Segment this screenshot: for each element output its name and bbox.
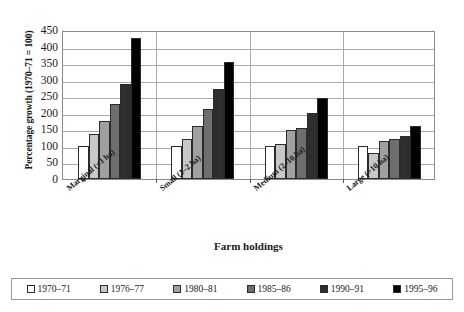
chart-legend: 1970–711976–771980–811985–861990–911995–…: [11, 278, 453, 300]
legend-label: 1985–86: [258, 284, 291, 294]
legend-item[interactable]: 1976–77: [100, 284, 144, 294]
y-axis-tick-labels: 050100150200250300350400450: [24, 31, 58, 180]
legend-item[interactable]: 1970–71: [27, 284, 71, 294]
x-tick-mark: [156, 179, 157, 183]
y-tick-label: 350: [24, 58, 58, 70]
bar[interactable]: [192, 126, 203, 179]
bar[interactable]: [224, 62, 235, 179]
y-tick-label: 50: [24, 158, 58, 170]
y-tick-label: 300: [24, 75, 58, 87]
bar[interactable]: [203, 109, 214, 179]
bar[interactable]: [410, 126, 421, 179]
legend-swatch-icon: [393, 285, 401, 293]
legend-item[interactable]: 1995–96: [393, 284, 437, 294]
x-tick-mark: [343, 179, 344, 183]
legend-swatch-icon: [320, 285, 328, 293]
legend-item[interactable]: 1980–81: [173, 284, 217, 294]
y-tick-label: 250: [24, 91, 58, 103]
y-tick-label: 400: [24, 42, 58, 54]
legend-swatch-icon: [27, 285, 35, 293]
legend-item[interactable]: 1990–91: [320, 284, 364, 294]
bar[interactable]: [307, 113, 318, 179]
y-tick-label: 100: [24, 141, 58, 153]
legend-label: 1980–81: [184, 284, 217, 294]
legend-swatch-icon: [247, 285, 255, 293]
bar-group: [343, 32, 436, 179]
y-tick-label: 450: [24, 25, 58, 37]
x-axis-title: Farm holdings: [62, 240, 435, 252]
legend-item[interactable]: 1985–86: [247, 284, 291, 294]
x-tick-mark: [250, 179, 251, 183]
legend-label: 1990–91: [331, 284, 364, 294]
legend-label: 1970–71: [38, 284, 71, 294]
bar[interactable]: [131, 38, 142, 179]
y-tick-label: 150: [24, 125, 58, 137]
bar[interactable]: [213, 89, 224, 179]
bar[interactable]: [400, 136, 411, 179]
bar[interactable]: [110, 104, 121, 179]
legend-label: 1995–96: [404, 284, 437, 294]
bar[interactable]: [120, 84, 131, 179]
y-tick-label: 0: [24, 174, 58, 186]
legend-label: 1976–77: [111, 284, 144, 294]
bar-group: [156, 32, 249, 179]
y-tick-label: 200: [24, 108, 58, 120]
legend-swatch-icon: [173, 285, 181, 293]
bar-chart-figure: Percentage growth (1970–71 = 100) 050100…: [0, 0, 464, 312]
legend-swatch-icon: [100, 285, 108, 293]
bar[interactable]: [317, 98, 328, 179]
